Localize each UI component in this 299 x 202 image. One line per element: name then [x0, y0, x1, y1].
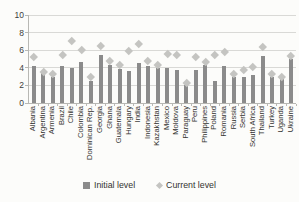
x-axis-label: South Africa: [248, 106, 257, 178]
y-axis-tick: [25, 85, 29, 86]
bar-hungary: [127, 71, 131, 103]
x-axis-label: Turkey: [267, 106, 276, 178]
bar-colombia: [79, 62, 83, 103]
marker-india: [135, 40, 143, 48]
bar-philippines: [203, 65, 207, 103]
x-axis-label: Paraguay: [181, 106, 190, 178]
bar-serbia: [242, 77, 246, 103]
bar-chile: [70, 68, 74, 103]
marker-colombia: [78, 45, 86, 53]
x-axis-label: Dominican Rep.: [85, 106, 94, 178]
marker-moldova: [173, 51, 181, 59]
x-axis-label: India: [133, 106, 142, 178]
bar-india: [137, 63, 141, 103]
marker-hungary: [125, 47, 133, 55]
x-axis-label: Thailand: [257, 106, 266, 178]
marker-dominican-rep-: [87, 73, 95, 81]
x-axis-label: Uganda: [276, 106, 285, 178]
marker-mexico: [163, 50, 171, 58]
x-axis-label: Indonesia: [143, 106, 152, 178]
marker-peru: [192, 52, 200, 60]
gridline: [29, 15, 296, 16]
y-axis-tick: [25, 15, 29, 16]
x-axis-label: Poland: [209, 106, 218, 178]
x-axis-label: Russia: [229, 106, 238, 178]
x-axis-label: Romania: [219, 106, 228, 178]
marker-chile: [68, 37, 76, 45]
bar-uganda: [280, 78, 284, 103]
bar-moldova: [175, 70, 179, 103]
y-axis-label: 0: [6, 98, 24, 108]
y-axis-tick: [25, 32, 29, 33]
current-level-diamond-icon: [156, 181, 163, 188]
y-axis-tick: [25, 103, 29, 104]
bar-ukraine: [289, 59, 293, 103]
legend-initial-level: Initial level: [83, 180, 135, 190]
bar-kazakhstan: [156, 68, 160, 103]
y-axis-tick: [25, 67, 29, 68]
y-axis-label: 4: [6, 63, 24, 73]
bar-paraguay: [184, 85, 188, 103]
legend-current-level-label: Current level: [166, 180, 216, 190]
marker-albania: [30, 53, 38, 61]
x-axis-label: Brazil: [57, 106, 66, 178]
x-axis-label: Hungary: [124, 106, 133, 178]
x-axis-label: Argentina: [38, 106, 47, 178]
bar-turkey: [270, 77, 274, 103]
gridline: [29, 50, 296, 51]
bar-georgia: [99, 55, 103, 103]
bar-albania: [32, 66, 36, 103]
x-axis-label: Guatemala: [114, 106, 123, 178]
bar-poland: [213, 81, 217, 103]
legend-initial-level-label: Initial level: [94, 180, 135, 190]
gridline: [29, 32, 296, 33]
marker-brazil: [58, 51, 66, 59]
bar-armenia: [51, 77, 55, 103]
legend: Initial level Current level: [0, 180, 299, 190]
x-axis-label: Ghana: [105, 106, 114, 178]
y-axis-tick: [25, 50, 29, 51]
x-axis-label: Armenia: [47, 106, 56, 178]
x-axis-label: Albania: [28, 106, 37, 178]
marker-ghana: [106, 57, 114, 65]
marker-ukraine: [287, 52, 295, 60]
x-axis-label: Georgia: [95, 106, 104, 178]
bar-dominican-rep-: [89, 81, 93, 103]
plot-area: [28, 15, 296, 104]
bar-russia: [232, 77, 236, 103]
x-axis-label: Serbia: [238, 106, 247, 178]
initial-level-square-icon: [83, 182, 90, 189]
y-axis-label: 6: [6, 45, 24, 55]
y-axis-label: 10: [6, 10, 24, 20]
marker-poland: [211, 51, 219, 59]
bar-peru: [194, 70, 198, 103]
marker-indonesia: [144, 57, 152, 65]
bar-romania: [222, 66, 226, 103]
x-axis-label: Kazakhstan: [152, 106, 161, 178]
x-axis-label: Ukraine: [286, 106, 295, 178]
x-axis-label: Philippines: [200, 106, 209, 178]
bar-indonesia: [146, 66, 150, 103]
marker-georgia: [97, 42, 105, 50]
bar-south-africa: [251, 75, 255, 103]
bar-thailand: [261, 56, 265, 103]
legend-current-level: Current level: [157, 180, 216, 190]
bar-chart: 0246810 AlbaniaArgentinaArmeniaBrazilChi…: [0, 0, 299, 202]
x-axis-label: Peru: [190, 106, 199, 178]
x-axis-tick: [296, 104, 297, 106]
y-axis-label: 2: [6, 80, 24, 90]
marker-south-africa: [249, 63, 257, 71]
bar-argentina: [41, 73, 45, 103]
bar-mexico: [165, 68, 169, 103]
x-axis-label: Moldova: [171, 106, 180, 178]
bar-ghana: [108, 65, 112, 103]
x-axis-label: Chile: [66, 106, 75, 178]
bar-guatemala: [118, 69, 122, 103]
y-axis-label: 8: [6, 28, 24, 38]
x-axis-label: Colombia: [76, 106, 85, 178]
bar-brazil: [60, 66, 64, 103]
x-axis-label: Mexico: [162, 106, 171, 178]
